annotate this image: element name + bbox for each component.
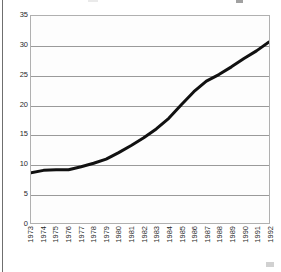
x-tick-label: 1986 bbox=[191, 226, 199, 260]
y-tick-label: 20 bbox=[8, 101, 28, 109]
x-tick-label: 1992 bbox=[267, 226, 275, 260]
data-line-series bbox=[31, 16, 269, 223]
series-line bbox=[31, 42, 269, 173]
y-tick-label: 10 bbox=[8, 160, 28, 168]
x-tick-label: 1984 bbox=[166, 226, 174, 260]
y-tick-label: 0 bbox=[8, 220, 28, 228]
y-tick-label: 15 bbox=[8, 130, 28, 138]
x-tick-label: 1978 bbox=[90, 226, 98, 260]
x-tick-label: 1973 bbox=[27, 226, 35, 260]
y-tick-label: 30 bbox=[8, 41, 28, 49]
y-tick-label: 5 bbox=[8, 190, 28, 198]
x-tick-label: 1990 bbox=[242, 226, 250, 260]
line-chart-figure: 05101520253035 1973197419751976197719781… bbox=[0, 0, 281, 272]
x-tick-label: 1977 bbox=[78, 226, 86, 260]
x-tick-label: 1974 bbox=[40, 226, 48, 260]
x-tick-label: 1985 bbox=[179, 226, 187, 260]
x-axis: 1973197419751976197719781979198019811982… bbox=[30, 226, 270, 266]
x-tick-label: 1982 bbox=[141, 226, 149, 260]
x-tick-label: 1979 bbox=[103, 226, 111, 260]
x-tick-label: 1975 bbox=[52, 226, 60, 260]
y-tick-label: 25 bbox=[8, 71, 28, 79]
x-tick-label: 1989 bbox=[229, 226, 237, 260]
y-axis: 05101520253035 bbox=[8, 15, 28, 224]
x-tick-label: 1988 bbox=[216, 226, 224, 260]
x-tick-label: 1976 bbox=[65, 226, 73, 260]
x-tick-label: 1981 bbox=[128, 226, 136, 260]
x-tick-label: 1991 bbox=[254, 226, 262, 260]
x-tick-label: 1983 bbox=[153, 226, 161, 260]
x-tick-label: 1980 bbox=[115, 226, 123, 260]
y-tick-label: 35 bbox=[8, 11, 28, 19]
plot-area bbox=[30, 15, 270, 224]
x-tick-label: 1987 bbox=[204, 226, 212, 260]
